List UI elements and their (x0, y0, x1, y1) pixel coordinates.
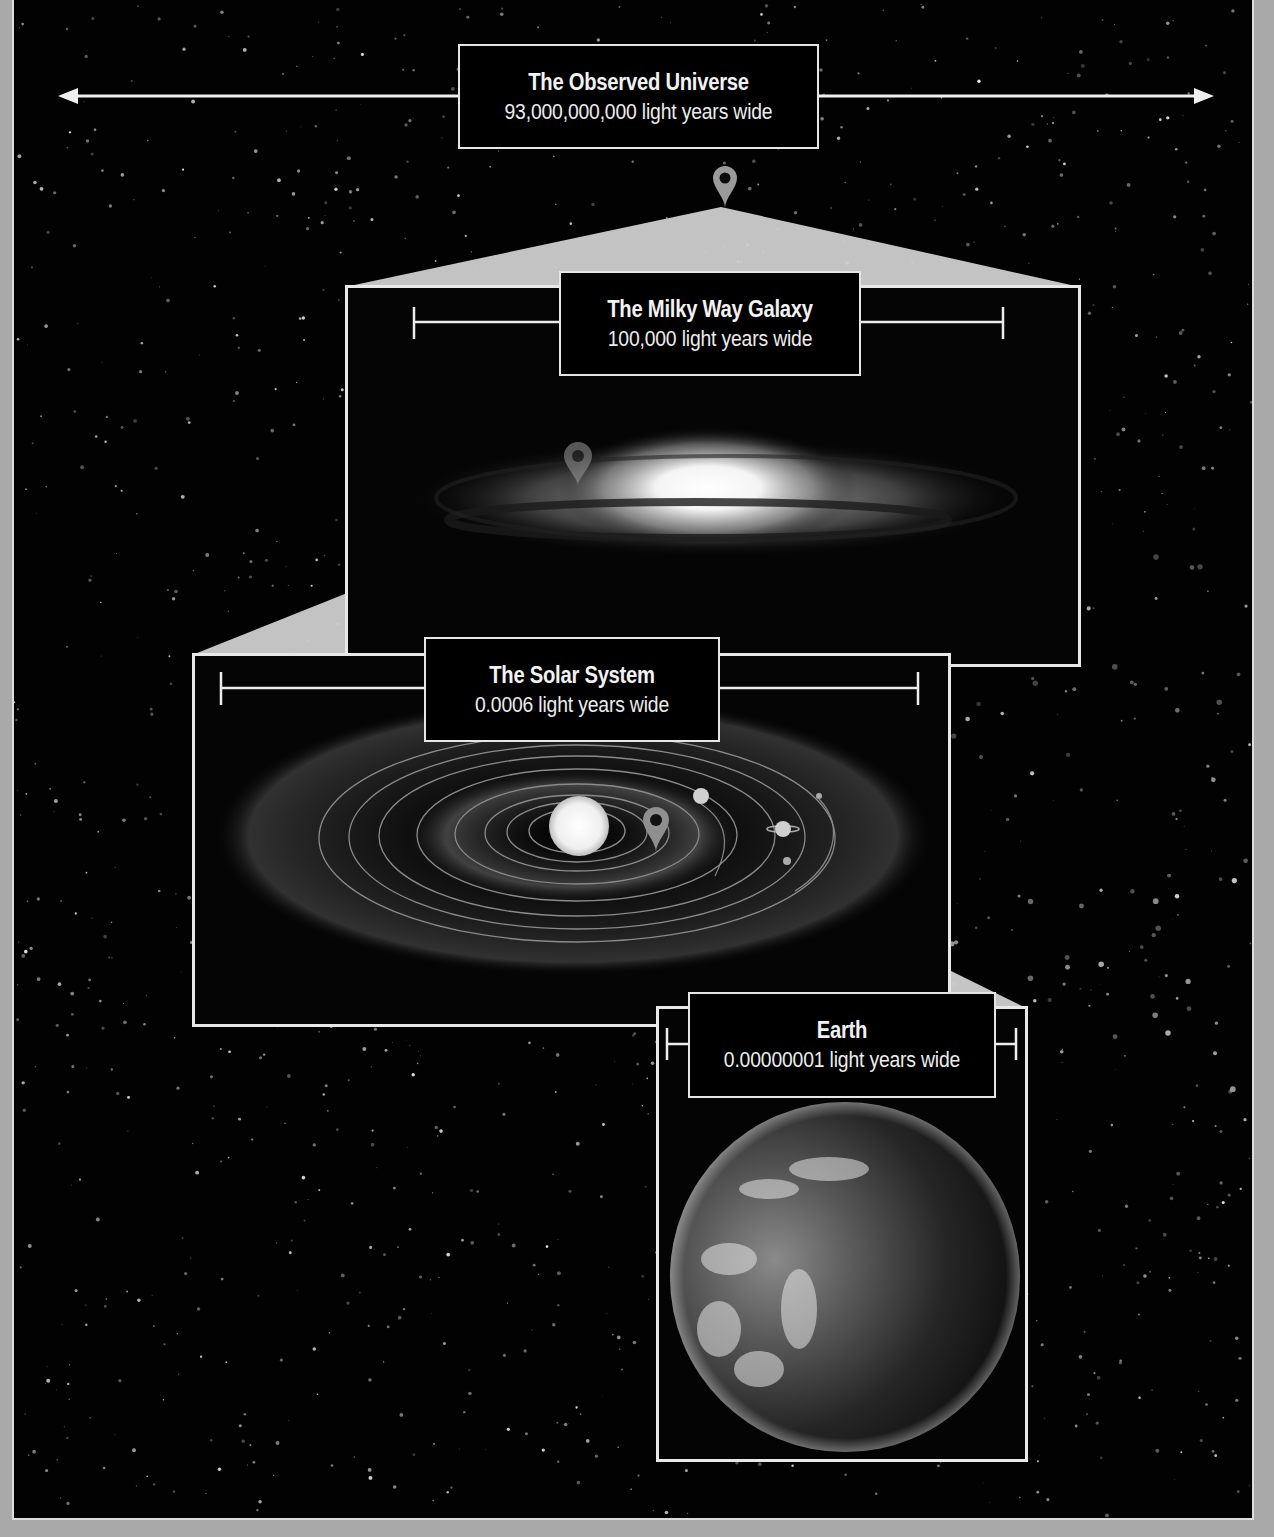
galaxy-width: 100,000 light years wide (579, 324, 841, 354)
solar-system-title: The Solar System (444, 660, 701, 690)
galaxy-title: The Milky Way Galaxy (579, 294, 841, 324)
universe-label: The Observed Universe 93,000,000,000 lig… (458, 44, 819, 149)
solar-system-label: The Solar System 0.0006 light years wide (424, 637, 720, 742)
scale-brackets (14, 0, 1254, 1520)
map-pin-icon (712, 165, 738, 209)
universe-title: The Observed Universe (481, 67, 795, 97)
solar-system-width: 0.0006 light years wide (444, 690, 701, 720)
infographic-frame: The Observed Universe 93,000,000,000 lig… (12, 0, 1254, 1520)
earth-width: 0.00000001 light years wide (708, 1045, 976, 1075)
earth-title: Earth (708, 1015, 976, 1045)
galaxy-label: The Milky Way Galaxy 100,000 light years… (559, 271, 861, 376)
universe-width: 93,000,000,000 light years wide (481, 97, 795, 127)
earth-label: Earth 0.00000001 light years wide (688, 992, 996, 1098)
